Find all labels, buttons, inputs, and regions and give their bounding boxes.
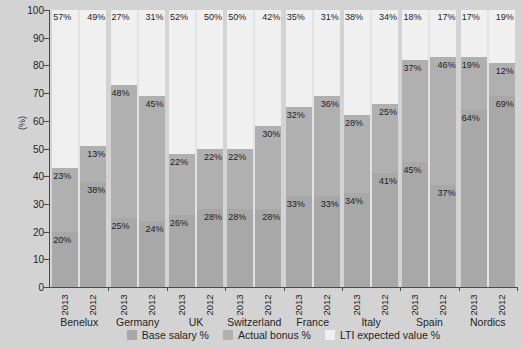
legend-item[interactable]: Actual bonus % — [223, 329, 311, 341]
value-label-lti-expected-value-uk-2012: 50% — [204, 12, 222, 22]
y-axis-tickmark-50 — [44, 149, 49, 150]
x-tick-italy-2013: 2013 — [344, 292, 370, 318]
y-axis-tick-100: 100 — [12, 5, 44, 16]
segment-actual-bonus-france-2013[interactable] — [286, 107, 312, 196]
x-tick-france-2013: 2013 — [286, 292, 312, 318]
segment-base-salary-benelux-2012[interactable] — [80, 182, 106, 287]
value-label-actual-bonus-spain-2013: 37% — [403, 63, 421, 73]
y-axis-tick-10: 10 — [12, 254, 44, 265]
segment-lti-expected-value-italy-2013[interactable] — [344, 10, 370, 115]
y-axis-tickmark-90 — [44, 38, 49, 39]
y-axis-tick-80: 80 — [12, 60, 44, 71]
y-axis-tick-30: 30 — [12, 198, 44, 209]
y-axis-tick-50: 50 — [12, 143, 44, 154]
bar-italy-2013[interactable]: 34%28%38% — [344, 10, 370, 287]
x-tick-switzerland-2012: 2012 — [255, 292, 281, 318]
bar-switzerland-2013[interactable]: 28%22%50% — [227, 10, 253, 287]
segment-base-salary-france-2013[interactable] — [286, 196, 312, 287]
y-axis-tick-60: 60 — [12, 115, 44, 126]
value-label-actual-bonus-benelux-2012: 13% — [87, 149, 105, 159]
plot-area: 20%23%57%38%13%49%25%48%27%24%45%31%26%2… — [50, 10, 517, 287]
legend-item[interactable]: Base salary % — [127, 329, 209, 341]
segment-actual-bonus-france-2012[interactable] — [314, 96, 340, 196]
y-axis-tick-0: 0 — [12, 282, 44, 293]
y-axis-tickmark-30 — [44, 204, 49, 205]
value-label-base-salary-switzerland-2013: 28% — [228, 212, 246, 222]
value-label-lti-expected-value-switzerland-2013: 50% — [228, 12, 246, 22]
x-axis-group-separator — [225, 287, 226, 291]
segment-base-salary-france-2012[interactable] — [314, 196, 340, 287]
value-label-base-salary-nordics-2012: 69% — [496, 99, 514, 109]
bar-nordics-2012[interactable]: 69%12%19% — [489, 10, 515, 287]
segment-lti-expected-value-switzerland-2013[interactable] — [227, 10, 253, 149]
value-label-base-salary-spain-2013: 45% — [403, 165, 421, 175]
x-tick-italy-2012: 2012 — [372, 292, 398, 318]
segment-actual-bonus-spain-2013[interactable] — [402, 60, 428, 162]
bar-france-2013[interactable]: 33%32%35% — [286, 10, 312, 287]
y-axis-tickmark-100 — [44, 10, 49, 11]
bar-benelux-2013[interactable]: 20%23%57% — [52, 10, 78, 287]
segment-base-salary-italy-2013[interactable] — [344, 193, 370, 287]
segment-actual-bonus-germany-2012[interactable] — [139, 96, 165, 221]
x-tick-uk-2013: 2013 — [169, 292, 195, 318]
value-label-lti-expected-value-benelux-2013: 57% — [53, 12, 71, 22]
segment-base-salary-spain-2013[interactable] — [402, 162, 428, 287]
legend-item[interactable]: LTI expected value % — [325, 329, 440, 341]
x-axis-group-separator — [284, 287, 285, 291]
value-label-lti-expected-value-nordics-2012: 19% — [496, 12, 514, 22]
value-label-actual-bonus-france-2012: 36% — [321, 99, 339, 109]
value-label-lti-expected-value-switzerland-2012: 42% — [262, 12, 280, 22]
bar-france-2012[interactable]: 33%36%31% — [314, 10, 340, 287]
value-label-actual-bonus-switzerland-2013: 22% — [228, 152, 246, 162]
bar-spain-2012[interactable]: 37%46%17% — [430, 10, 456, 287]
segment-base-salary-italy-2012[interactable] — [372, 173, 398, 287]
y-axis-tick-70: 70 — [12, 88, 44, 99]
segment-base-salary-nordics-2012[interactable] — [489, 96, 515, 287]
value-label-lti-expected-value-benelux-2012: 49% — [87, 12, 105, 22]
bar-germany-2012[interactable]: 24%45%31% — [139, 10, 165, 287]
y-axis-tick-90: 90 — [12, 32, 44, 43]
segment-lti-expected-value-germany-2012[interactable] — [139, 10, 165, 96]
segment-lti-expected-value-uk-2013[interactable] — [169, 10, 195, 154]
value-label-actual-bonus-switzerland-2012: 30% — [262, 129, 280, 139]
value-label-actual-bonus-nordics-2013: 19% — [462, 60, 480, 70]
bar-italy-2012[interactable]: 41%25%34% — [372, 10, 398, 287]
value-label-actual-bonus-uk-2013: 22% — [170, 157, 188, 167]
value-label-actual-bonus-italy-2013: 28% — [345, 118, 363, 128]
segment-actual-bonus-germany-2013[interactable] — [111, 85, 137, 218]
bar-uk-2013[interactable]: 26%22%52% — [169, 10, 195, 287]
segment-lti-expected-value-benelux-2012[interactable] — [80, 10, 106, 146]
bar-group-uk: 26%22%52%28%22%50% — [167, 10, 225, 287]
value-label-base-salary-germany-2012: 24% — [146, 224, 164, 234]
bar-switzerland-2012[interactable]: 28%30%42% — [255, 10, 281, 287]
segment-lti-expected-value-uk-2012[interactable] — [197, 10, 223, 149]
value-label-base-salary-germany-2013: 25% — [112, 221, 130, 231]
value-label-base-salary-france-2013: 33% — [287, 199, 305, 209]
bar-germany-2013[interactable]: 25%48%27% — [111, 10, 137, 287]
value-label-base-salary-benelux-2013: 20% — [53, 235, 71, 245]
y-axis-tickmark-10 — [44, 259, 49, 260]
value-label-actual-bonus-uk-2012: 22% — [204, 152, 222, 162]
x-tick-switzerland-2013: 2013 — [227, 292, 253, 318]
value-label-lti-expected-value-germany-2013: 27% — [112, 12, 130, 22]
segment-base-salary-spain-2012[interactable] — [430, 185, 456, 287]
value-label-base-salary-benelux-2012: 38% — [87, 185, 105, 195]
segment-lti-expected-value-france-2013[interactable] — [286, 10, 312, 107]
x-tick-uk-2012: 2012 — [197, 292, 223, 318]
stacked-bar-chart: (%) 0102030405060708090100 20%23%57%38%1… — [0, 0, 523, 349]
segment-actual-bonus-spain-2012[interactable] — [430, 57, 456, 184]
x-tick-nordics-2012: 2012 — [489, 292, 515, 318]
bar-uk-2012[interactable]: 28%22%50% — [197, 10, 223, 287]
segment-base-salary-nordics-2013[interactable] — [461, 110, 487, 287]
segment-lti-expected-value-france-2012[interactable] — [314, 10, 340, 96]
bar-spain-2013[interactable]: 45%37%18% — [402, 10, 428, 287]
segment-lti-expected-value-italy-2012[interactable] — [372, 10, 398, 104]
bar-benelux-2012[interactable]: 38%13%49% — [80, 10, 106, 287]
segment-lti-expected-value-switzerland-2012[interactable] — [255, 10, 281, 126]
y-axis-tick-40: 40 — [12, 171, 44, 182]
y-axis-tickmark-40 — [44, 176, 49, 177]
bar-nordics-2013[interactable]: 64%19%17% — [461, 10, 487, 287]
segment-lti-expected-value-benelux-2013[interactable] — [52, 10, 78, 168]
bar-group-benelux: 20%23%57%38%13%49% — [50, 10, 108, 287]
x-tick-germany-2012: 2012 — [139, 292, 165, 318]
